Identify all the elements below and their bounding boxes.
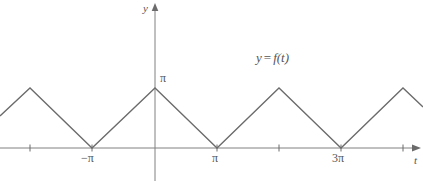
y-axis-label: y [143, 3, 148, 14]
x-tick-label-neg-pi: −π [81, 152, 94, 164]
function-operator: = [262, 50, 273, 65]
x-axis-arrowhead [412, 145, 421, 152]
function-rhs: f(t) [273, 50, 289, 65]
function-annotation: y=f(t) [256, 51, 289, 64]
y-tick-label-pi: π [160, 72, 166, 84]
x-tick-label-3pi: 3π [332, 152, 344, 164]
t-axis-label: t [414, 155, 417, 166]
y-axis-arrowhead [152, 3, 159, 11]
function-lhs: y [256, 50, 262, 65]
triangle-wave-curve [0, 88, 423, 148]
x-tick-label-pi: π [212, 152, 218, 164]
